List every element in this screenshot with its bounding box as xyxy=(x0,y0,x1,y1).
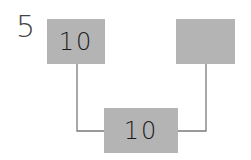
node-top-left: 10 xyxy=(47,19,105,64)
right-connector xyxy=(178,64,206,131)
node-top-right-empty[interactable] xyxy=(176,19,235,64)
puzzle-number: 5 xyxy=(16,12,35,42)
left-connector xyxy=(77,64,104,131)
node-bottom: 10 xyxy=(104,108,178,153)
